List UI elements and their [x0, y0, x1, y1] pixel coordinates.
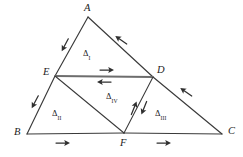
geometry-canvas: [0, 0, 243, 157]
triangle-label-II: ΔII: [52, 109, 61, 120]
segment-FC: [124, 133, 222, 134]
vertex-label-E: E: [43, 67, 49, 78]
arrow-below-ED: [97, 79, 111, 85]
vertex-label-B: B: [14, 127, 20, 138]
arrow-on-BF: [56, 140, 70, 146]
triangle-label-III: ΔIII: [155, 109, 166, 120]
geometry-figure: ABCDEF ΔIΔIIΔIIIΔIV: [0, 0, 243, 157]
roman-numeral: II: [57, 115, 61, 121]
arrow-on-EB: [29, 94, 41, 109]
triangle-label-I: ΔI: [83, 49, 90, 60]
segment-EB: [27, 76, 55, 134]
vertex-label-F: F: [120, 138, 126, 149]
vertex-label-C: C: [228, 126, 235, 137]
segment-ED: [55, 76, 153, 77]
arrow-on-DC: [179, 86, 194, 99]
triangle-label-IV: ΔIV: [106, 92, 118, 103]
arrow-on-AD: [114, 34, 129, 47]
vertex-label-D: D: [157, 65, 165, 76]
segment-DC: [153, 77, 222, 134]
segment-EF: [55, 76, 124, 133]
roman-numeral: I: [88, 55, 90, 61]
segment-BF: [27, 133, 124, 134]
roman-numeral: IV: [111, 98, 117, 104]
segment-DF: [124, 77, 153, 133]
segment-AE: [55, 17, 88, 76]
vertex-label-A: A: [84, 3, 90, 14]
arrow-on-FC: [157, 140, 171, 146]
arrow-above-ED: [100, 67, 114, 73]
segment-AD: [88, 17, 153, 77]
roman-numeral: III: [160, 115, 166, 121]
